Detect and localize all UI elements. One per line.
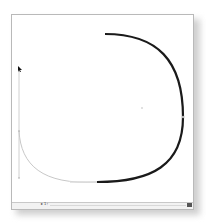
path-preview-segment <box>19 131 97 182</box>
scroll-right-icon[interactable] <box>187 203 192 207</box>
anchor-point[interactable] <box>182 116 184 118</box>
status-bar: ▸ 1↑ <box>12 202 193 209</box>
anchor-point[interactable] <box>18 130 20 132</box>
center-point-icon <box>141 107 143 109</box>
drawing-canvas[interactable] <box>12 15 193 204</box>
bezier-path[interactable] <box>97 34 183 182</box>
horizontal-scrollbar[interactable] <box>50 205 186 206</box>
anchor-point[interactable] <box>18 177 20 179</box>
document-window: ▸ 1↑ <box>11 14 194 210</box>
zoom-label[interactable]: ▸ 1↑ <box>41 201 48 206</box>
